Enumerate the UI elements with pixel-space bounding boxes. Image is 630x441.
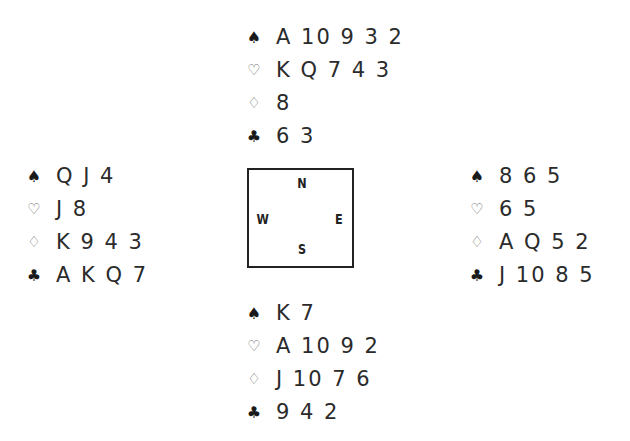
compass-box: N W E S xyxy=(247,168,354,268)
club-icon: ♣ xyxy=(20,266,50,285)
clipped-text-line-above xyxy=(0,0,630,8)
east-spades-row: ♠ 8 6 5 xyxy=(463,161,562,191)
spade-icon: ♠ xyxy=(463,167,493,186)
south-diamonds-row: ♢ J 10 7 6 xyxy=(240,364,372,394)
east-hearts: 6 5 xyxy=(499,197,538,221)
south-clubs-row: ♣ 9 4 2 xyxy=(240,397,339,427)
compass-west-label: W xyxy=(257,211,269,227)
north-spades-row: ♠ A 10 9 3 2 xyxy=(240,22,404,52)
compass-east-label: E xyxy=(335,211,343,227)
south-hearts: A 10 9 2 xyxy=(276,334,380,358)
north-clubs-row: ♣ 6 3 xyxy=(240,121,315,151)
north-hearts-row: ♡ K Q 7 4 3 xyxy=(240,55,391,85)
north-spades: A 10 9 3 2 xyxy=(276,25,404,49)
spade-icon: ♠ xyxy=(240,28,270,47)
diamond-icon: ♢ xyxy=(240,94,270,112)
heart-icon: ♡ xyxy=(463,200,493,218)
north-diamonds: 8 xyxy=(276,91,291,115)
west-hearts: J 8 xyxy=(56,197,88,221)
club-icon: ♣ xyxy=(463,266,493,285)
south-hearts-row: ♡ A 10 9 2 xyxy=(240,331,380,361)
east-clubs: J 10 8 5 xyxy=(499,263,595,287)
east-spades: 8 6 5 xyxy=(499,164,562,188)
diamond-icon: ♢ xyxy=(463,233,493,251)
east-clubs-row: ♣ J 10 8 5 xyxy=(463,260,595,290)
north-clubs: 6 3 xyxy=(276,124,315,148)
club-icon: ♣ xyxy=(240,127,270,146)
club-icon: ♣ xyxy=(240,403,270,422)
west-diamonds: K 9 4 3 xyxy=(56,230,144,254)
west-spades-row: ♠ Q J 4 xyxy=(20,161,115,191)
east-diamonds: A Q 5 2 xyxy=(499,230,591,254)
west-hearts-row: ♡ J 8 xyxy=(20,194,88,224)
north-diamonds-row: ♢ 8 xyxy=(240,88,291,118)
south-clubs: 9 4 2 xyxy=(276,400,339,424)
diamond-icon: ♢ xyxy=(20,233,50,251)
south-spades-row: ♠ K 7 xyxy=(240,298,316,328)
heart-icon: ♡ xyxy=(240,61,270,79)
compass-south-label: S xyxy=(298,241,306,257)
spade-icon: ♠ xyxy=(240,304,270,323)
south-spades: K 7 xyxy=(276,301,316,325)
east-hearts-row: ♡ 6 5 xyxy=(463,194,538,224)
compass-north-label: N xyxy=(297,175,306,191)
west-spades: Q J 4 xyxy=(56,164,115,188)
heart-icon: ♡ xyxy=(20,200,50,218)
south-diamonds: J 10 7 6 xyxy=(276,367,372,391)
diamond-icon: ♢ xyxy=(240,370,270,388)
heart-icon: ♡ xyxy=(240,337,270,355)
east-diamonds-row: ♢ A Q 5 2 xyxy=(463,227,591,257)
west-clubs-row: ♣ A K Q 7 xyxy=(20,260,148,290)
west-clubs: A K Q 7 xyxy=(56,263,148,287)
spade-icon: ♠ xyxy=(20,167,50,186)
west-diamonds-row: ♢ K 9 4 3 xyxy=(20,227,144,257)
north-hearts: K Q 7 4 3 xyxy=(276,58,391,82)
